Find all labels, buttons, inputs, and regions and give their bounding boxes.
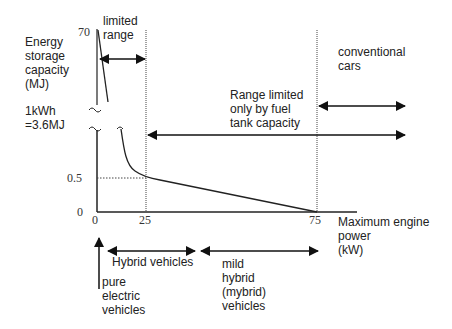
- annotation-line: electric: [102, 289, 145, 303]
- conversion-line: =3.6MJ: [25, 118, 65, 132]
- y-tick-0-5: 0.5: [67, 171, 82, 186]
- y-axis-label: Energy storage capacity (MJ): [25, 35, 69, 91]
- hybrid-vehicles-label: Hybrid vehicles: [112, 255, 193, 269]
- limited-range-label: limited range: [103, 14, 138, 42]
- curve-lower: [121, 129, 317, 212]
- y-tick-70: 70: [78, 25, 90, 40]
- x-tick-75: 75: [309, 213, 321, 228]
- annotation-line: only by fuel: [230, 102, 303, 116]
- pure-electric-label: pure electric vehicles: [102, 275, 145, 317]
- annotation-line: limited: [103, 14, 138, 28]
- x-label-line: power: [338, 229, 429, 243]
- conversion-line: 1kWh: [25, 104, 65, 118]
- annotation-line: vehicles: [222, 299, 266, 313]
- y-axis: [89, 29, 123, 212]
- x-tick-25: 25: [139, 213, 151, 228]
- annotation-line: cars: [338, 59, 405, 73]
- annotation-line: tank capacity: [230, 116, 303, 130]
- annotation-line: vehicles: [102, 303, 145, 317]
- mild-hybrid-label: mild hybrid (mybrid) vehicles: [222, 257, 266, 313]
- x-label-line: (kW): [338, 243, 429, 257]
- conventional-cars-label: conventional cars: [338, 45, 405, 73]
- annotation-line: (mybrid): [222, 285, 266, 299]
- annotation-line: range: [103, 28, 138, 42]
- x-axis-label: Maximum engine power (kW): [338, 215, 429, 257]
- annotation-line: hybrid: [222, 271, 266, 285]
- x-tick-0: 0: [92, 213, 98, 228]
- annotation-line: mild: [222, 257, 266, 271]
- y-label-line: capacity: [25, 63, 69, 77]
- y-label-line: (MJ): [25, 77, 69, 91]
- fuel-range-label: Range limited only by fuel tank capacity: [230, 88, 303, 130]
- y-tick-0: 0: [77, 205, 83, 220]
- annotation-line: Range limited: [230, 88, 303, 102]
- annotation-line: pure: [102, 275, 145, 289]
- x-label-line: Maximum engine: [338, 215, 429, 229]
- y-label-line: Energy: [25, 35, 69, 49]
- y-label-line: storage: [25, 49, 69, 63]
- annotation-line: conventional: [338, 45, 405, 59]
- unit-conversion: 1kWh =3.6MJ: [25, 104, 65, 132]
